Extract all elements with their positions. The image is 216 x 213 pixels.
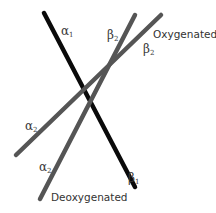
beta-letter: β (107, 28, 114, 42)
oxygenated-line (16, 15, 161, 155)
subscript: 2 (114, 35, 118, 43)
beta-letter: β (143, 42, 150, 56)
label-beta1: β1 (128, 172, 139, 186)
label-alpha2-oxygenated: α2 (25, 120, 38, 134)
label-deoxygenated: Deoxygenated (51, 192, 128, 203)
alpha-letter: α (25, 119, 33, 133)
label-oxygenated: Oxygenated (153, 29, 216, 40)
deoxygenated-line (40, 15, 135, 199)
beta-letter: β (128, 171, 135, 185)
alpha-letter: α (39, 160, 47, 174)
label-alpha2-deoxygenated: α2 (39, 161, 52, 175)
subscript: 2 (47, 167, 51, 175)
subscript: 1 (135, 178, 139, 186)
label-alpha1: α1 (61, 25, 74, 39)
alpha-letter: α (61, 24, 69, 38)
label-beta2-deoxygenated: β2 (107, 29, 118, 43)
subscript: 1 (69, 31, 73, 39)
label-beta2-oxygenated: β2 (143, 43, 154, 57)
subscript: 2 (150, 49, 154, 57)
subscript: 2 (33, 126, 37, 134)
